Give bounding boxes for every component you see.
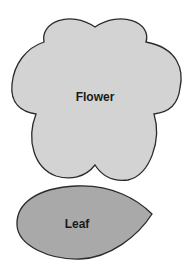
flower-label: Flower <box>65 90 125 104</box>
leaf-label: Leaf <box>52 217 102 231</box>
